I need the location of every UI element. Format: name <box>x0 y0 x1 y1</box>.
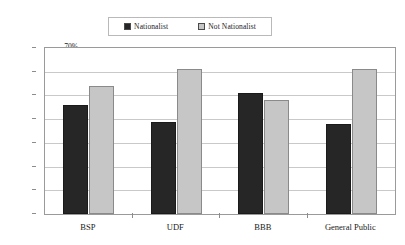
gridline <box>45 72 395 73</box>
chart-legend: Nationalist Not Nationalist <box>108 17 272 36</box>
y-tick-mark <box>32 189 36 190</box>
y-tick-mark <box>32 213 36 214</box>
x-category-label: General Public <box>325 223 376 232</box>
legend-label-not-nationalist: Not Nationalist <box>208 23 256 31</box>
bar-chart: Nationalist Not Nationalist 0%10%20%30%4… <box>0 0 405 245</box>
y-tick-mark <box>32 94 36 95</box>
x-tick-mark <box>219 213 220 218</box>
bar-general-public-not-nationalist <box>352 69 377 214</box>
legend-swatch-icon-not-nationalist <box>198 23 205 30</box>
bar-udf-nationalist <box>151 122 176 215</box>
bar-bbb-not-nationalist <box>264 100 289 214</box>
y-tick-mark <box>32 142 36 143</box>
x-category-label: BSP <box>80 223 95 232</box>
bar-bsp-nationalist <box>63 105 88 214</box>
y-tick-mark <box>32 71 36 72</box>
bar-bsp-not-nationalist <box>89 86 114 214</box>
x-tick-mark <box>132 213 133 218</box>
bar-general-public-nationalist <box>326 124 351 214</box>
legend-swatch-icon-nationalist <box>124 23 131 30</box>
y-tick-mark <box>32 47 36 48</box>
legend-item-nationalist: Nationalist <box>124 23 168 31</box>
x-category-label: UDF <box>167 223 184 232</box>
y-tick-mark <box>32 118 36 119</box>
bar-udf-not-nationalist <box>177 69 202 214</box>
legend-label-nationalist: Nationalist <box>134 23 168 31</box>
legend-item-not-nationalist: Not Nationalist <box>198 23 256 31</box>
x-tick-mark <box>307 213 308 218</box>
x-category-label: BBB <box>254 223 271 232</box>
plot-area <box>44 47 396 215</box>
bar-bbb-nationalist <box>238 93 263 214</box>
y-tick-mark <box>32 166 36 167</box>
